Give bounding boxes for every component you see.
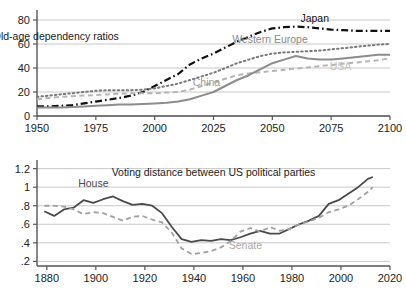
series-label-china: China xyxy=(193,76,221,88)
y-tick-label-20: 20 xyxy=(18,86,30,98)
series-label-house: House xyxy=(78,177,109,189)
series-label-usa: USA xyxy=(330,60,352,72)
chart-old-age-dependency: 0204060801950197520002025205020752100Old… xyxy=(0,0,406,150)
chart-title: Voting distance between US political par… xyxy=(112,166,316,178)
series-line-senate xyxy=(44,187,372,254)
y-tick-label-.6: .6 xyxy=(21,218,30,230)
x-tick-label-1900: 1900 xyxy=(84,272,108,284)
figure-container: 0204060801950197520002025205020752100Old… xyxy=(0,0,406,294)
y-tick-label-.4: .4 xyxy=(21,237,30,249)
x-tick-label-2000: 2000 xyxy=(329,272,353,284)
x-tick-label-2100: 2100 xyxy=(378,122,402,134)
x-tick-label-2075: 2075 xyxy=(319,122,343,134)
y-tick-label-1.2: 1.2 xyxy=(15,163,30,175)
x-tick-label-2000: 2000 xyxy=(142,122,166,134)
y-tick-label-.8: .8 xyxy=(21,200,30,212)
series-label-western-europe: Western Europe xyxy=(232,33,308,45)
x-tick-label-2050: 2050 xyxy=(260,122,284,134)
x-tick-label-1980: 1980 xyxy=(280,272,304,284)
annotations-group: Old-age dependency ratiosJapanWestern Eu… xyxy=(0,12,351,88)
x-tick-label-2020: 2020 xyxy=(378,272,402,284)
chart-old-age-dependency-svg: 0204060801950197520002025205020752100Old… xyxy=(0,0,406,150)
series-label-senate: Senate xyxy=(229,239,262,251)
chart-voting-distance-svg: .2.4.6.811.21880190019201940196019802000… xyxy=(0,150,406,294)
annotations-group: Voting distance between US political par… xyxy=(78,166,315,251)
chart-voting-distance: .2.4.6.811.21880190019201940196019802000… xyxy=(0,150,406,294)
x-tick-label-1940: 1940 xyxy=(182,272,206,284)
y-tick-label-40: 40 xyxy=(18,62,30,74)
y-tick-label-1: 1 xyxy=(24,181,30,193)
y-tick-label-0: 0 xyxy=(24,110,30,122)
chart-title: Old-age dependency ratios xyxy=(0,30,119,42)
x-tick-label-2025: 2025 xyxy=(201,122,225,134)
x-tick-label-1975: 1975 xyxy=(84,122,108,134)
x-tick-label-1950: 1950 xyxy=(25,122,49,134)
x-tick-label-1920: 1920 xyxy=(133,272,157,284)
x-tick-label-1960: 1960 xyxy=(231,272,255,284)
y-tick-label-80: 80 xyxy=(18,14,30,26)
x-tick-label-1880: 1880 xyxy=(35,272,59,284)
y-tick-label-.2: .2 xyxy=(21,255,30,267)
series-label-japan: Japan xyxy=(300,12,329,24)
